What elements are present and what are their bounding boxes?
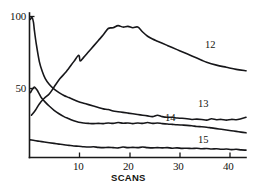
chart-figure: 100 50 10 20 30 40 SCANS 12 13 14 15 bbox=[0, 0, 261, 187]
data-curve-14 bbox=[30, 87, 246, 133]
axes-group bbox=[30, 13, 247, 158]
x-axis-tick-label-10: 10 bbox=[73, 161, 84, 172]
chart-plot-area bbox=[0, 0, 261, 187]
x-axis-tick-label-30: 30 bbox=[173, 161, 184, 172]
data-curves-group bbox=[30, 17, 246, 150]
series-label-13: 13 bbox=[198, 99, 209, 110]
series-label-12: 12 bbox=[205, 40, 216, 51]
x-axis-title: SCANS bbox=[111, 173, 146, 183]
data-curve-13 bbox=[30, 17, 246, 120]
data-curve-15 bbox=[30, 140, 246, 150]
y-axis-tick-label-100: 100 bbox=[4, 11, 26, 22]
y-axis-tick-label-50: 50 bbox=[4, 83, 26, 94]
x-axis-tick-label-40: 40 bbox=[223, 161, 234, 172]
series-label-15: 15 bbox=[198, 135, 209, 146]
x-axis-tick-label-20: 20 bbox=[123, 161, 134, 172]
series-label-14: 14 bbox=[165, 113, 176, 124]
